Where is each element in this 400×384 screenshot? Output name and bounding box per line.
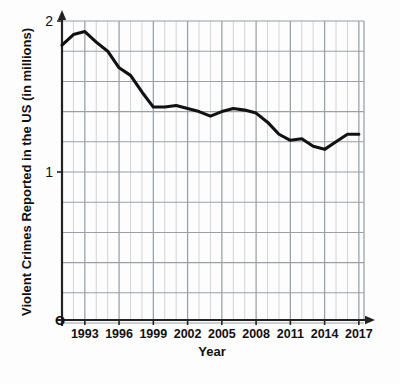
x-tick-label: 2011 [277,327,304,341]
x-tick-label: 2005 [208,327,236,341]
y-axis-title: Violent Crimes Reported in the US (in mi… [19,28,34,316]
x-tick-label: 2008 [242,327,270,341]
y-tick-label: 1 [45,164,53,180]
origin-label: O [55,313,65,328]
x-tick-label: 2014 [311,327,339,341]
y-tick-label: 2 [45,13,53,29]
violent-crimes-line-chart: 199319961999200220052008201120142017 12 … [0,0,400,384]
x-axis-tick-labels: 199319961999200220052008201120142017 [71,327,373,341]
chart-canvas: 199319961999200220052008201120142017 12 … [0,0,400,384]
x-tick-label: 1999 [139,327,167,341]
x-tick-label: 2017 [345,327,373,341]
x-tick-label: 1996 [105,327,133,341]
x-axis-title: Year [198,344,225,359]
x-tick-label: 1993 [71,327,99,341]
x-tick-label: 2002 [174,327,202,341]
